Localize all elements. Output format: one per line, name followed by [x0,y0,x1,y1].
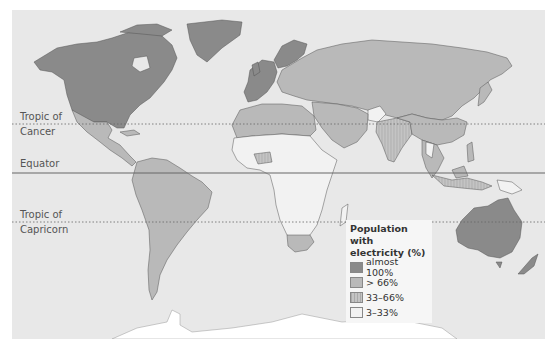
region-south-africa [287,235,314,252]
tropic-of-capricorn-label-line1: Tropic of [20,209,68,221]
region-russia-eurasia [277,40,512,120]
legend-swatch-3-33 [350,307,363,318]
legend-item: 3–33% [350,305,428,319]
region-north-africa [232,104,316,138]
tropic-of-capricorn-label: Tropic of Capricorn [20,209,68,236]
region-papua-new-guinea [497,180,522,194]
region-western-europe [244,60,277,102]
legend-label: 33–66% [366,292,404,303]
tropic-of-capricorn-label-line2: Capricorn [20,224,68,236]
region-sub-saharan-africa [232,134,337,242]
map-graphic [12,10,545,339]
region-india [376,118,412,162]
tropic-of-cancer-label-line1: Tropic of [20,111,62,123]
map-legend: Population with electricity (%) almost 1… [346,220,432,323]
region-middle-east [312,102,368,148]
region-new-zealand [518,254,538,274]
legend-item: almost 100% [350,260,428,274]
legend-label: 3–33% [366,307,398,318]
region-greenland [187,20,242,62]
legend-item: 33–66% [350,290,428,304]
legend-title-line1: Population with [350,223,428,247]
equator-label: Equator [20,158,59,170]
legend-swatch-33-66 [350,292,363,303]
legend-swatch-gt-66 [350,277,363,288]
tropic-of-cancer-label-line2: Cancer [20,126,62,138]
tropic-of-cancer-label: Tropic of Cancer [20,111,62,138]
world-map: Tropic of Cancer Equator Tropic of Capri… [12,10,545,339]
legend-swatch-almost-100 [350,262,363,273]
region-australia [456,198,522,258]
legend-label: > 66% [366,277,398,288]
region-south-america [132,158,212,300]
legend-label: almost 100% [366,256,428,278]
